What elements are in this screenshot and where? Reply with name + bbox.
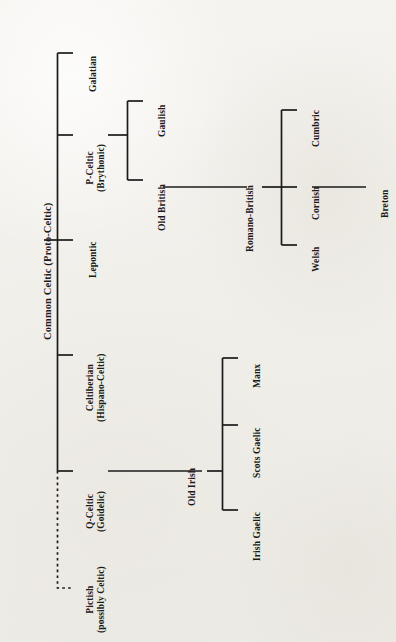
- node-label-q-celtic: Q-Celtic (Goidelic): [85, 491, 106, 532]
- node-label-scots-gaelic: Scots Gaelic: [252, 427, 263, 478]
- node-label-cornish: Cornish: [311, 187, 322, 220]
- node-label-gaulish: Gaulish: [157, 105, 168, 137]
- edge-root-to-pictish-dotted: [58, 471, 74, 588]
- node-label-irish-gaelic: Irish Gaelic: [252, 512, 263, 561]
- node-label-lepontic: Lepontic: [88, 241, 99, 278]
- tree-connector-lines: [0, 0, 396, 642]
- node-label-galatian: Galatian: [88, 56, 99, 92]
- node-label-cumbric: Cumbric: [311, 110, 322, 147]
- node-label-breton: Breton: [380, 190, 391, 218]
- node-label-old-british: Old British: [157, 184, 168, 231]
- node-label-welsh: Welsh: [311, 247, 322, 272]
- node-label-root: Common Celtic (Proto-Celtic): [42, 203, 54, 340]
- node-label-old-irish: Old Irish: [187, 468, 198, 506]
- node-label-celtiberian: Celtiberian (Hispano-Celtic): [85, 353, 106, 422]
- node-label-pictish: Pictish (possibly Celtic): [85, 566, 106, 633]
- node-label-romano-british: Romano-British: [245, 185, 256, 252]
- figure-canvas: Common Celtic (Proto-Celtic) Galatian P-…: [0, 0, 396, 642]
- node-label-manx: Manx: [252, 364, 263, 388]
- node-label-p-celtic: P-Celtic (Brythonic): [85, 144, 106, 192]
